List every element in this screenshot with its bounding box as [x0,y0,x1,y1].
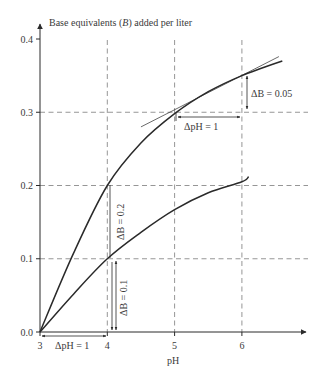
y-tick-label: 0.4 [21,34,34,45]
delta-ph-bottom-label: ΔpH = 1 [55,340,89,351]
x-axis-title: pH [167,355,179,366]
y-ticks: 0.00.10.20.30.4 [21,34,41,338]
x-tick-label: 5 [172,340,177,351]
x-tick-label: 6 [239,340,244,351]
y-tick-label: 0.2 [21,180,34,191]
y-tick-label: 0.0 [21,327,34,338]
axes [40,24,306,332]
delta-b-01-label: ΔB = 0.1 [118,280,129,316]
delta-b-005-label: ΔB = 0.05 [251,88,292,99]
y-axis-title: Base equivalents (B) added per liter [49,17,193,29]
delta-ph-top-label: ΔpH = 1 [184,121,218,132]
titration-chart: 0.00.10.20.30.4 3456 Base equivalents (B… [0,0,324,384]
x-tick-label: 4 [105,340,110,351]
y-tick-label: 0.1 [21,253,34,264]
delta-b-02-label: ΔB = 0.2 [115,204,126,240]
x-tick-label: 3 [38,340,43,351]
y-tick-label: 0.3 [21,107,34,118]
curves [40,57,282,332]
gridlines [40,40,308,332]
lower-curve [40,177,249,332]
